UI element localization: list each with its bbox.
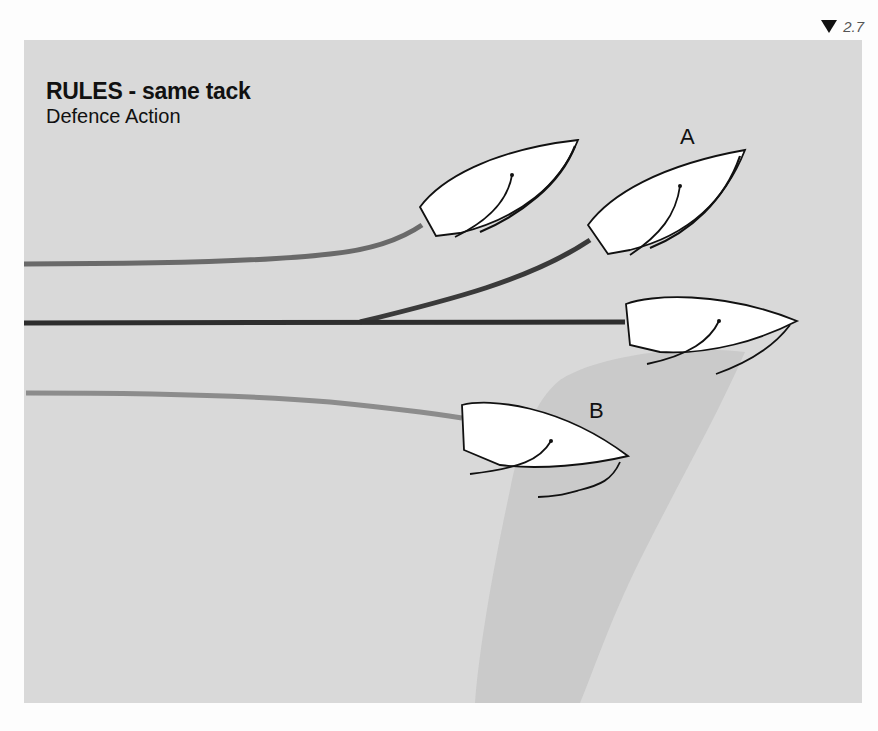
track-boat-b <box>26 393 462 418</box>
down-triangle-icon <box>821 20 837 33</box>
diagram-title: RULES - same tack <box>46 78 251 105</box>
page-number-label: 2.7 <box>843 18 864 35</box>
boat-a: A <box>588 124 745 255</box>
track-boat-center <box>24 322 625 323</box>
boat-a-label: A <box>680 124 695 149</box>
boat-b-label: B <box>589 398 604 423</box>
track-boat-a <box>360 240 590 322</box>
track-boat-1 <box>24 225 422 264</box>
diagram-subtitle: Defence Action <box>46 105 251 128</box>
page-number: 2.7 <box>821 18 864 35</box>
boat-1 <box>420 140 578 237</box>
title-block: RULES - same tack Defence Action <box>46 78 251 128</box>
wind-shadow <box>475 350 745 703</box>
sailing-diagram: A B <box>24 40 862 703</box>
diagram-panel: A B RULES - same tack Defence Action <box>24 40 862 703</box>
